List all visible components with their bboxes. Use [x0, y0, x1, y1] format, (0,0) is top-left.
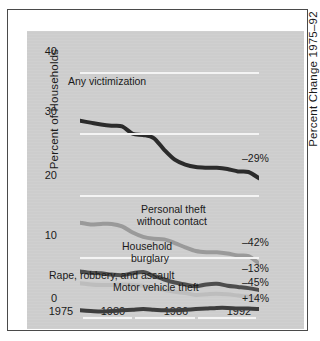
ytick-label-10: 10	[31, 230, 57, 241]
figure: 40 30 20 10 0 1975 1980 1986 1992 Percen…	[0, 0, 317, 341]
xtick-mark-1975	[80, 316, 83, 320]
series-label-motor-vehicle-theft: Motor vehicle theft	[113, 282, 199, 294]
series-line-any-victimization	[80, 121, 259, 178]
series-label-personal-theft-line1: Personal theft	[141, 204, 206, 216]
series-line-motor-vehicle-theft	[80, 308, 259, 312]
change-label-rape-robbery-assault: –45%	[242, 277, 269, 288]
figure-frame: 40 30 20 10 0 1975 1980 1986 1992 Percen…	[7, 9, 308, 331]
series-label-personal-theft-line2: without contact	[137, 216, 207, 228]
gridline-10	[80, 257, 259, 259]
change-label-motor-vehicle-theft: +14%	[242, 293, 269, 304]
gridline-40	[80, 72, 259, 74]
chart-panel: 40 30 20 10 0 1975 1980 1986 1992 Percen…	[27, 31, 304, 329]
change-label-personal-theft: –42%	[242, 237, 269, 248]
series-label-rape-robbery-assault: Rape, robbery, and assault	[49, 270, 174, 282]
xtick-mark-1986	[195, 316, 198, 320]
series-label-any-victimization: Any victimization	[68, 76, 146, 88]
axis-baseline-0	[80, 317, 259, 319]
right-axis-title: Percent Change 1975–92	[307, 0, 317, 165]
change-label-any-victimization: –29%	[242, 153, 269, 164]
gridline-30	[80, 133, 259, 135]
y-axis-title: Percent of Households	[48, 29, 60, 189]
gridline-20	[80, 195, 259, 197]
xtick-mark-1992	[256, 316, 259, 320]
xtick-mark-1980	[132, 316, 135, 320]
xtick-label-1975: 1975	[41, 306, 81, 317]
change-label-household-burglary: –13%	[242, 263, 269, 274]
series-label-household-line1: Household	[122, 241, 172, 253]
series-label-household-line2: burglary	[131, 253, 169, 265]
ytick-label-0: 0	[31, 293, 57, 304]
